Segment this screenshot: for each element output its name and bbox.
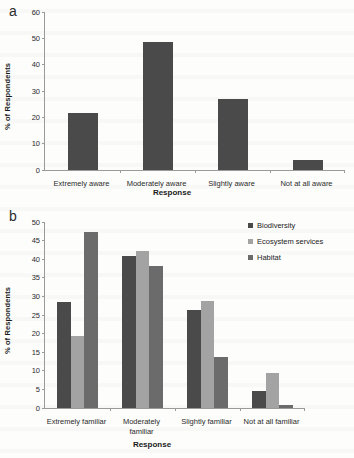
y-tick-label: 50 (32, 217, 40, 228)
panel-b-plot-area: 05101520253035404550 (44, 223, 304, 409)
chart-panel-a: a % of Respondents 0102030405060 Extreme… (0, 0, 354, 205)
chart-panel-b: b % of Respondents 05101520253035404550 … (0, 205, 354, 458)
legend-label: Habitat (257, 253, 281, 262)
legend-item: Biodiversity (248, 221, 295, 230)
y-tick-label: 60 (32, 7, 40, 18)
y-tick-label: 30 (32, 86, 40, 97)
x-category-label-line: Not at all aware (280, 179, 332, 188)
panel-a-x-axis-title: Response (0, 188, 344, 197)
y-tick-label: 20 (32, 112, 40, 123)
y-tick-label: 30 (32, 291, 40, 302)
y-tick-label: 10 (32, 138, 40, 149)
panel-a-bars (45, 13, 344, 170)
legend-item: Habitat (248, 253, 281, 262)
y-tick-label: 0 (36, 165, 40, 176)
y-tick-label: 35 (32, 272, 40, 283)
x-category-label-line: Slightly aware (208, 179, 255, 188)
y-tick-label: 15 (32, 347, 40, 358)
bar (279, 405, 292, 408)
x-tick-mark (240, 408, 241, 411)
panel-b-letter: b (9, 208, 17, 224)
x-tick-mark (195, 170, 196, 173)
x-tick-mark (110, 408, 111, 411)
panel-b-y-axis-title: % of Respondents (3, 287, 12, 354)
x-category-label-line: Moderately aware (127, 179, 187, 188)
x-category-label-line: Not at all familiar (244, 417, 300, 426)
bar (143, 42, 173, 170)
legend-label: Ecosystem services (257, 237, 323, 246)
y-tick-label: 45 (32, 235, 40, 246)
x-category-label-line: familiar (129, 427, 153, 436)
legend-swatch-icon (248, 255, 253, 260)
bar (293, 160, 323, 170)
x-tick-mark (304, 408, 305, 411)
panel-a-y-axis-title: % of Respondents (3, 63, 12, 130)
y-tick-label: 40 (32, 254, 40, 265)
bar (214, 357, 227, 408)
y-tick-label: 20 (32, 328, 40, 339)
y-tick-label: 40 (32, 59, 40, 70)
bar (71, 336, 84, 408)
bar (252, 391, 265, 408)
x-tick-mark (120, 170, 121, 173)
x-category-label-line: Moderately (123, 417, 160, 426)
bar (57, 302, 70, 408)
bar (187, 310, 200, 408)
panel-b-x-axis-title: Response (0, 440, 304, 449)
bar (136, 251, 149, 408)
x-tick-mark (175, 408, 176, 411)
legend-label: Biodiversity (257, 221, 295, 230)
x-category-label: Not at all familiar (227, 417, 315, 427)
y-tick-label: 50 (32, 33, 40, 44)
legend-swatch-icon (248, 239, 253, 244)
y-tick-label: 0 (36, 403, 40, 414)
y-tick-label: 10 (32, 365, 40, 376)
figure-canvas: a % of Respondents 0102030405060 Extreme… (0, 0, 354, 458)
panel-a-letter: a (9, 3, 17, 19)
bar (218, 99, 248, 170)
bar (68, 113, 98, 170)
y-tick-label: 5 (36, 384, 40, 395)
bar (266, 373, 279, 408)
y-tick-label: 25 (32, 310, 40, 321)
x-category-label-line: Extremely aware (54, 179, 110, 188)
bar (201, 301, 214, 409)
legend-item: Ecosystem services (248, 237, 323, 246)
panel-b-bars (45, 223, 304, 408)
x-tick-mark (270, 170, 271, 173)
bar (149, 266, 162, 408)
x-tick-mark (344, 170, 345, 173)
bar (122, 256, 135, 408)
bar (84, 232, 97, 408)
x-category-label-line: Slightly familiar (181, 417, 231, 426)
legend-swatch-icon (248, 223, 253, 228)
panel-a-plot-area: 0102030405060 (44, 13, 344, 171)
